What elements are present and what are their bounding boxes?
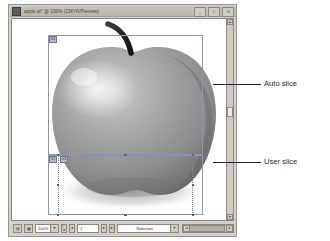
window-title: apple.ai* @ 100% (CMYK/Preview) — [24, 8, 99, 15]
document-canvas[interactable]: 01 02 03 — [11, 18, 228, 221]
selection-handle-w[interactable] — [57, 184, 60, 187]
minimize-button[interactable]: _ — [194, 7, 206, 17]
slice-badge-auto: 01 — [49, 36, 57, 43]
zoom-level-select[interactable]: 100% ▼ — [35, 224, 59, 233]
selection-handle-sw[interactable] — [57, 214, 60, 217]
leader-line-auto-slice — [213, 84, 261, 85]
horizontal-scrollbar[interactable]: ◄ ► — [182, 224, 234, 233]
window-controls: _ □ ✕ — [194, 7, 234, 17]
slice-badge-user-inner: 03 — [60, 156, 68, 163]
selection-handle-e[interactable] — [192, 184, 195, 187]
canvas-background: 01 02 03 — [12, 19, 227, 220]
horizontal-scroll-thumb[interactable] — [189, 225, 225, 232]
vertical-scrollbar[interactable]: ▲ ▼ — [226, 18, 234, 221]
annotation-user-slice: User slice — [264, 157, 297, 166]
status-mode-select[interactable]: Selection ▼ — [117, 224, 179, 233]
application-window: apple.ai* @ 100% (CMYK/Preview) _ □ ✕ — [8, 4, 237, 237]
scroll-down-arrow-icon[interactable]: ▼ — [227, 214, 233, 220]
selection-handle-n[interactable] — [124, 154, 127, 157]
status-mode-value: Selection — [118, 226, 171, 231]
last-page-button[interactable]: ►| — [109, 224, 115, 233]
auto-slice-region[interactable] — [48, 35, 203, 155]
status-bar: ▤ ▦ 100% ▼ |◄ ◄ 1 ► ►| Selection ▼ ◄ ► — [11, 222, 236, 234]
prev-page-button[interactable]: ◄ — [69, 224, 75, 233]
first-page-button[interactable]: |◄ — [61, 224, 67, 233]
slice-badge-user: 02 — [49, 156, 57, 163]
chevron-down-icon-mode[interactable]: ▼ — [170, 225, 178, 232]
scroll-up-arrow-icon[interactable]: ▲ — [227, 19, 233, 25]
maximize-button[interactable]: □ — [208, 7, 220, 17]
selection-handle-se[interactable] — [192, 214, 195, 217]
leader-line-user-slice — [213, 162, 261, 163]
grid-view-icon[interactable]: ▦ — [24, 224, 33, 233]
zoom-level-value: 100% — [38, 226, 48, 231]
page-number-input[interactable]: 1 — [77, 224, 99, 233]
vertical-scroll-thumb[interactable] — [227, 107, 233, 117]
scroll-right-arrow-icon[interactable]: ► — [226, 225, 233, 232]
selection-handle-ne[interactable] — [192, 154, 195, 157]
chevron-down-icon[interactable]: ▼ — [50, 225, 58, 232]
page-view-icon[interactable]: ▤ — [13, 224, 22, 233]
close-button[interactable]: ✕ — [222, 7, 234, 17]
annotation-auto-slice: Auto slice — [264, 79, 297, 88]
selection-handle-nw[interactable] — [57, 154, 60, 157]
selection-handle-s[interactable] — [124, 214, 127, 217]
user-slice-selection[interactable] — [58, 155, 193, 215]
next-page-button[interactable]: ► — [101, 224, 107, 233]
document-icon — [12, 7, 21, 16]
title-bar[interactable]: apple.ai* @ 100% (CMYK/Preview) _ □ ✕ — [10, 6, 236, 17]
